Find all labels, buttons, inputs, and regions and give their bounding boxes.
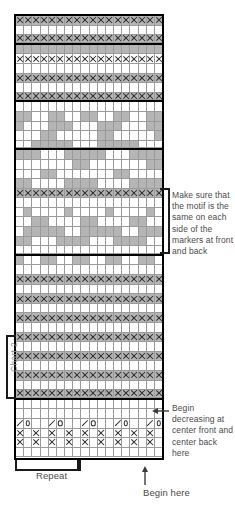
chart-cell[interactable] — [139, 227, 147, 237]
chart-cell[interactable] — [106, 93, 114, 101]
chart-cell[interactable] — [73, 170, 81, 180]
chart-cell[interactable] — [90, 400, 98, 410]
chart-cell[interactable] — [65, 304, 73, 314]
chart-cell[interactable] — [41, 83, 49, 93]
chart-cell[interactable] — [122, 150, 130, 160]
chart-cell[interactable] — [114, 102, 122, 112]
chart-cell[interactable] — [147, 26, 155, 36]
chart-cell[interactable] — [98, 237, 106, 247]
chart-cell[interactable] — [41, 16, 49, 26]
chart-cell[interactable] — [90, 160, 98, 170]
chart-cell[interactable] — [41, 54, 49, 64]
chart-row[interactable] — [16, 93, 162, 103]
chart-cell[interactable] — [139, 304, 147, 314]
chart-cell[interactable] — [90, 131, 98, 141]
chart-cell[interactable] — [65, 227, 73, 237]
chart-cell[interactable] — [155, 275, 162, 285]
chart-cell[interactable] — [122, 265, 130, 275]
chart-cell[interactable] — [90, 64, 98, 74]
chart-cell[interactable] — [122, 429, 130, 439]
chart-cell[interactable] — [130, 333, 138, 343]
chart-row[interactable] — [16, 141, 162, 151]
chart-cell[interactable] — [57, 371, 65, 381]
chart-cell[interactable] — [49, 313, 57, 323]
chart-cell[interactable] — [130, 74, 138, 84]
chart-cell[interactable] — [81, 160, 89, 170]
chart-cell[interactable] — [73, 102, 81, 112]
chart-cell[interactable] — [41, 198, 49, 208]
chart-cell[interactable] — [98, 419, 106, 429]
chart-cell[interactable] — [90, 112, 98, 122]
chart-row[interactable] — [16, 400, 162, 410]
chart-cell[interactable] — [114, 246, 122, 254]
chart-cell[interactable] — [32, 381, 40, 391]
chart-row[interactable] — [16, 265, 162, 275]
chart-cell[interactable] — [73, 217, 81, 227]
chart-cell[interactable] — [114, 208, 122, 218]
chart-cell[interactable] — [73, 285, 81, 295]
chart-cell[interactable] — [114, 179, 122, 189]
chart-cell[interactable] — [65, 141, 73, 149]
chart-cell[interactable] — [122, 122, 130, 132]
chart-row[interactable] — [16, 390, 162, 400]
chart-cell[interactable] — [114, 16, 122, 26]
chart-cell[interactable] — [73, 208, 81, 218]
chart-cell[interactable] — [41, 112, 49, 122]
chart-cell[interactable] — [49, 448, 57, 458]
chart-cell[interactable] — [130, 352, 138, 362]
chart-cell[interactable] — [49, 429, 57, 439]
chart-cell[interactable] — [90, 313, 98, 323]
chart-row[interactable] — [16, 198, 162, 208]
chart-cell[interactable] — [114, 189, 122, 199]
chart-cell[interactable] — [106, 45, 114, 55]
chart-cell[interactable] — [147, 54, 155, 64]
chart-cell[interactable] — [155, 304, 162, 314]
chart-cell[interactable] — [130, 83, 138, 93]
chart-cell[interactable] — [49, 333, 57, 343]
chart-cell[interactable] — [106, 64, 114, 74]
chart-cell[interactable] — [130, 170, 138, 180]
chart-cell[interactable] — [73, 74, 81, 84]
chart-cell[interactable] — [114, 371, 122, 381]
chart-cell[interactable] — [41, 150, 49, 160]
chart-cell[interactable] — [73, 93, 81, 101]
chart-cell[interactable] — [122, 189, 130, 199]
chart-cell[interactable] — [57, 352, 65, 362]
chart-cell[interactable] — [106, 304, 114, 314]
chart-cell[interactable] — [24, 400, 32, 410]
chart-cell[interactable] — [106, 333, 114, 343]
chart-cell[interactable] — [130, 237, 138, 247]
chart-cell[interactable] — [98, 150, 106, 160]
chart-cell[interactable] — [73, 256, 81, 266]
chart-cell[interactable] — [114, 323, 122, 333]
chart-cell[interactable] — [98, 54, 106, 64]
chart-cell[interactable] — [81, 227, 89, 237]
chart-cell[interactable] — [73, 16, 81, 26]
chart-cell[interactable] — [57, 256, 65, 266]
chart-cell[interactable] — [24, 246, 32, 254]
chart-cell[interactable] — [41, 352, 49, 362]
chart-cell[interactable] — [81, 237, 89, 247]
chart-cell[interactable] — [24, 35, 32, 43]
chart-cell[interactable] — [106, 208, 114, 218]
chart-cell[interactable] — [147, 429, 155, 439]
chart-cell[interactable] — [32, 361, 40, 371]
chart-cell[interactable] — [114, 74, 122, 84]
chart-row[interactable] — [16, 275, 162, 285]
chart-cell[interactable] — [130, 198, 138, 208]
chart-cell[interactable] — [98, 112, 106, 122]
chart-cell[interactable] — [49, 342, 57, 352]
chart-cell[interactable] — [81, 141, 89, 149]
chart-cell[interactable] — [65, 361, 73, 371]
chart-row[interactable] — [16, 371, 162, 381]
chart-cell[interactable] — [122, 333, 130, 343]
chart-cell[interactable] — [147, 170, 155, 180]
chart-cell[interactable] — [41, 189, 49, 199]
chart-cell[interactable] — [90, 217, 98, 227]
chart-cell[interactable] — [41, 217, 49, 227]
chart-cell[interactable] — [155, 102, 162, 112]
chart-cell[interactable] — [130, 285, 138, 295]
chart-cell[interactable] — [32, 246, 40, 254]
chart-cell[interactable] — [114, 170, 122, 180]
chart-cell[interactable] — [106, 112, 114, 122]
